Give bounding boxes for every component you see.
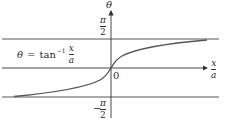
equation-fraction: x a bbox=[69, 44, 74, 65]
x-axis-label: x a bbox=[211, 59, 216, 80]
equation-label: θ = tan −1 x a bbox=[17, 44, 74, 65]
pi-numerator: π bbox=[100, 16, 106, 25]
two-denominator: 2 bbox=[100, 111, 106, 120]
equation-tan: tan bbox=[39, 49, 55, 60]
upper-asymptote-label: π 2 bbox=[100, 16, 106, 37]
x-numerator: x bbox=[211, 59, 216, 68]
origin-label: 0 bbox=[113, 71, 119, 81]
equation-equals: = bbox=[27, 49, 35, 60]
equation-theta: θ bbox=[17, 49, 23, 60]
a-denominator: a bbox=[211, 71, 216, 80]
lower-asymptote-label: π 2 bbox=[100, 99, 106, 120]
equation-denominator: a bbox=[69, 56, 74, 65]
theta-axis-label: θ bbox=[106, 0, 112, 10]
pi-numerator: π bbox=[100, 99, 106, 108]
equation-superscript: −1 bbox=[57, 47, 66, 54]
equation-numerator: x bbox=[69, 44, 74, 53]
two-denominator: 2 bbox=[100, 28, 106, 37]
